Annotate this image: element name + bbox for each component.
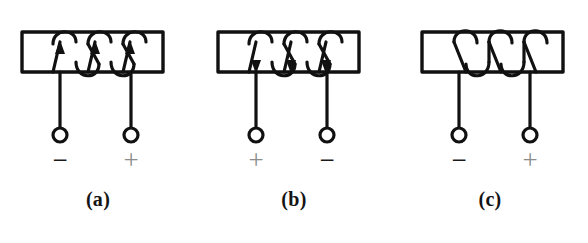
right-terminal-circle bbox=[320, 128, 334, 142]
left-terminal-sign: + bbox=[236, 147, 276, 174]
diagram-panel-a: − + (a) bbox=[0, 0, 196, 243]
left-terminal-circle bbox=[53, 128, 67, 142]
diagram-panel-b: + − (b) bbox=[196, 0, 392, 243]
panel-caption-a: (a) bbox=[0, 186, 196, 212]
panel-caption-c: (c) bbox=[392, 186, 588, 212]
panel-caption-b: (b) bbox=[196, 186, 392, 212]
right-terminal-circle bbox=[523, 128, 537, 142]
left-terminal-sign: − bbox=[40, 147, 80, 174]
diagram-panel-c: − + (c) bbox=[392, 0, 588, 243]
figure-row: − + (a) bbox=[0, 0, 588, 243]
left-terminal-circle bbox=[452, 128, 466, 142]
left-terminal-sign: − bbox=[439, 147, 479, 174]
right-terminal-sign: + bbox=[111, 147, 151, 174]
right-terminal-circle bbox=[124, 128, 138, 142]
right-terminal-sign: − bbox=[307, 147, 347, 174]
right-terminal-sign: + bbox=[510, 147, 550, 174]
left-terminal-circle bbox=[249, 128, 263, 142]
